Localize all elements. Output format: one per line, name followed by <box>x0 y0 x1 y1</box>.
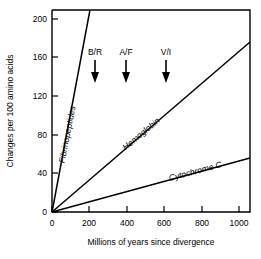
data-series-lines <box>52 10 250 212</box>
annotation-label-br: B/R <box>88 47 102 57</box>
x-tick-label-600: 600 <box>157 218 171 228</box>
x-tick-label-200: 200 <box>82 218 96 228</box>
annotation-arrow-head-af <box>122 72 130 83</box>
series-label-cytochrome-c: Cytochrome C <box>168 159 224 183</box>
annotation-arrow-head-br <box>91 72 99 83</box>
y-tick-label-40: 40 <box>38 168 48 178</box>
x-tick-label-400: 400 <box>120 218 134 228</box>
annotation-af: A/F <box>119 47 132 83</box>
y-tick-label-80: 80 <box>38 130 48 140</box>
series-label-fibrinopeptides: Fibrinopeptides <box>57 104 78 164</box>
y-axis-tick-labels: 200 160 120 80 40 0 <box>33 14 47 217</box>
y-tick-label-120: 120 <box>33 91 47 101</box>
x-tick-label-0: 0 <box>50 218 55 228</box>
y-axis-title: Changes per 100 amino acids <box>5 55 15 168</box>
annotation-arrow-head-vi <box>162 72 170 83</box>
y-tick-label-160: 160 <box>33 52 47 62</box>
annotation-vi: V/I <box>161 47 171 83</box>
annotation-label-af: A/F <box>119 47 132 57</box>
x-axis-ticks <box>52 206 239 212</box>
x-tick-label-1000: 1000 <box>230 218 249 228</box>
plot-frame <box>52 10 250 212</box>
y-tick-label-200: 200 <box>33 14 47 24</box>
figure-container: 200 160 120 80 40 0 Changes per 100 amin… <box>0 0 261 259</box>
annotation-br: B/R <box>88 47 102 83</box>
axes-box <box>52 10 250 212</box>
annotation-label-vi: V/I <box>161 47 171 57</box>
x-axis-tick-labels: 0 200 400 600 800 1000 <box>50 218 249 228</box>
evolutionary-rate-chart: 200 160 120 80 40 0 Changes per 100 amin… <box>0 0 261 259</box>
x-axis-title: Millions of years since divergence <box>87 237 214 247</box>
y-tick-label-0: 0 <box>42 207 47 217</box>
series-label-hemoglobin: Hemoglobin <box>120 115 161 152</box>
x-tick-label-800: 800 <box>195 218 209 228</box>
